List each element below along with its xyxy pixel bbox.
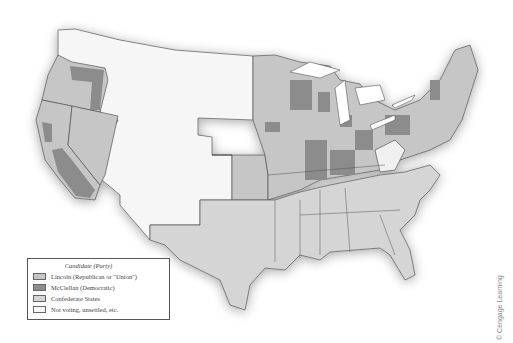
copyright-credit: © Cengage Learning (496, 275, 503, 340)
legend-item-lincoln: Lincoln (Republican or "Union") (33, 271, 164, 282)
legend-label: Not voting, unsettled, etc. (51, 306, 118, 313)
legend-item-confederate: Confederate States (33, 293, 164, 304)
legend-label: Confederate States (51, 295, 100, 302)
swatch-confederate (33, 295, 46, 302)
swatch-not-voting (33, 306, 46, 313)
north-midwest (253, 45, 478, 200)
map-legend: Candidate (Party) Lincoln (Republican or… (27, 258, 170, 320)
legend-label: McClellan (Democratic) (51, 284, 115, 291)
swatch-lincoln (33, 273, 46, 280)
legend-label: Lincoln (Republican or "Union") (51, 273, 137, 280)
legend-item-mcclellan: McClellan (Democratic) (33, 282, 164, 293)
legend-title: Candidate (Party) (13, 262, 164, 269)
legend-item-not-voting: Not voting, unsettled, etc. (33, 304, 164, 315)
swatch-mcclellan (33, 284, 46, 291)
